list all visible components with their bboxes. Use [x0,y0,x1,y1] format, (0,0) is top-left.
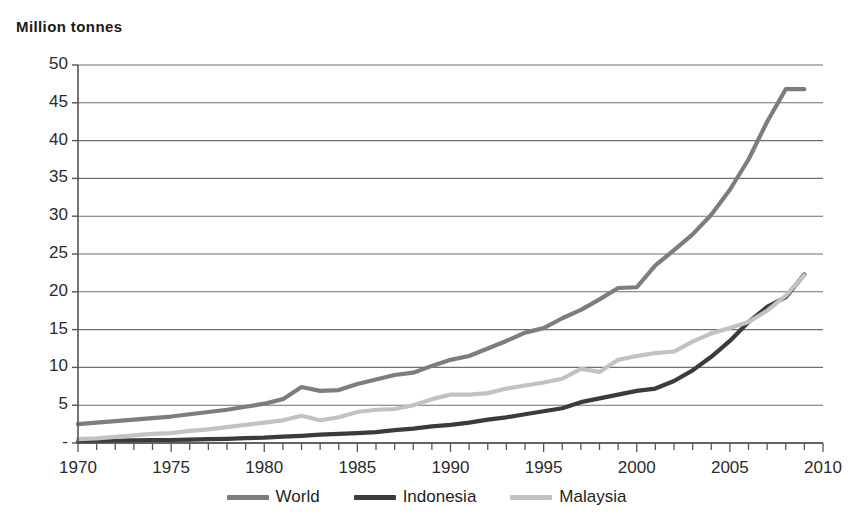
y-axis-tick-label: 50 [22,54,68,74]
y-axis-tick-label: - [22,432,68,452]
y-axis-tick-label: 30 [22,205,68,225]
legend-item-world[interactable]: World [227,487,320,507]
legend-item-malaysia[interactable]: Malaysia [510,487,626,507]
legend-label: Malaysia [559,487,626,507]
x-axis-tick-label: 1975 [141,458,201,478]
x-axis-tick-label: 1995 [514,458,574,478]
chart-legend: WorldIndonesiaMalaysia [0,487,853,507]
legend-label: World [276,487,320,507]
legend-item-indonesia[interactable]: Indonesia [354,487,477,507]
x-axis-tick-label: 2010 [793,458,853,478]
y-axis-tick-label: 45 [22,92,68,112]
series-lines-group [78,89,804,441]
legend-label: Indonesia [403,487,477,507]
chart-container: Million tonnes 5045403530252015105- 1970… [0,0,853,526]
x-axis-tick-label: 1990 [421,458,481,478]
gridlines-group [78,65,823,443]
x-axis-ticks-group [78,443,823,452]
series-line-world [78,89,804,424]
x-axis-tick-label: 1970 [48,458,108,478]
legend-swatch-icon [354,495,396,500]
y-axis-tick-label: 25 [22,243,68,263]
y-axis-tick-label: 10 [22,356,68,376]
y-axis-tick-label: 5 [22,394,68,414]
y-axis-ticks-group [72,65,78,443]
y-axis-tick-label: 35 [22,167,68,187]
x-axis-tick-label: 1980 [234,458,294,478]
x-axis-tick-label: 1985 [327,458,387,478]
y-axis-tick-label: 20 [22,281,68,301]
legend-swatch-icon [510,495,552,500]
plot-area [0,0,853,526]
y-axis-tick-label: 15 [22,319,68,339]
y-axis-tick-label: 40 [22,130,68,150]
legend-swatch-icon [227,495,269,500]
x-axis-tick-label: 2000 [607,458,667,478]
x-axis-tick-label: 2005 [700,458,760,478]
